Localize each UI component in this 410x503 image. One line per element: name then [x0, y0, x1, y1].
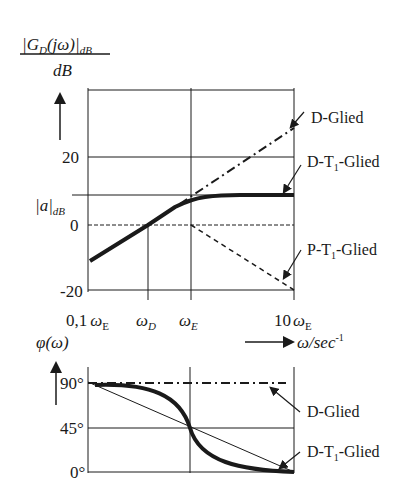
- svg-text:10ωE: 10ωE: [274, 311, 312, 332]
- x-axis-ticks: 0,1ωE ωD ωE 10ωE: [66, 311, 312, 332]
- svg-text:0,1ωE: 0,1ωE: [66, 311, 109, 332]
- magnitude-y-ticks: 20 0 -20 |a|dB: [35, 148, 83, 301]
- svg-text:|a|dB: |a|dB: [35, 196, 65, 217]
- svg-text:0: 0: [70, 216, 79, 235]
- svg-text:0°: 0°: [70, 463, 85, 482]
- frequency-unit-label: ω/sec-1: [297, 332, 344, 352]
- svg-text:20: 20: [62, 148, 79, 167]
- d-glied-pointer: [291, 112, 304, 127]
- svg-text:45°: 45°: [60, 419, 84, 438]
- svg-text:90°: 90°: [60, 374, 84, 393]
- mag-label-dt1-glied: D-T1-Glied: [307, 153, 380, 173]
- phase-label-dt1-glied: D-T1-Glied: [307, 443, 380, 463]
- phase-dt1-glied-pointer: [280, 452, 300, 468]
- svg-text:ωD: ωD: [136, 311, 156, 332]
- dt1-glied-pointer: [284, 165, 301, 192]
- svg-text:|GD(jω)|dB: |GD(jω)|dB: [22, 35, 92, 56]
- mag-label-d-glied: D-Glied: [311, 109, 363, 126]
- bode-diagram: |GD(jω)|dB dB 20 0 -20 |a|dB D-Glied D-T…: [0, 0, 410, 503]
- magnitude-pt1-glied-curve: [191, 225, 294, 290]
- magnitude-axis-label: |GD(jω)|dB dB: [20, 35, 110, 80]
- svg-text:-20: -20: [60, 282, 83, 301]
- phase-d-glied-pointer: [271, 388, 300, 412]
- magnitude-dt1-glied-curve: [90, 195, 294, 261]
- svg-text:ωE: ωE: [179, 311, 198, 332]
- pt1-glied-pointer: [284, 250, 301, 278]
- mag-label-pt1-glied: P-T1-Glied: [307, 241, 377, 261]
- svg-text:dB: dB: [53, 61, 73, 80]
- phase-y-ticks: 90° 45° 0°: [60, 374, 85, 482]
- phase-label-d-glied: D-Glied: [307, 403, 359, 420]
- phase-axis-label: φ(ω): [36, 333, 69, 352]
